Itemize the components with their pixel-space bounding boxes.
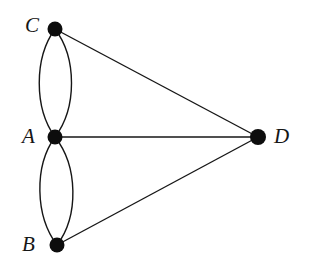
vertex-C (48, 22, 63, 37)
vertex-D (250, 129, 266, 145)
graph-figure: C A B D (0, 0, 309, 270)
edge-C-A-left (39, 29, 55, 137)
vertex-B (50, 238, 65, 253)
vertex-label-B: B (22, 234, 35, 255)
edge-C-D (55, 29, 258, 137)
edge-B-D (57, 137, 258, 245)
edge-layer (39, 29, 258, 245)
edge-C-A-right (55, 29, 72, 137)
vertex-label-C: C (25, 15, 39, 36)
edge-A-B-right (55, 137, 73, 245)
vertex-A (48, 130, 63, 145)
graph-canvas (0, 0, 309, 270)
edge-A-B-left (40, 137, 57, 245)
vertex-label-A: A (22, 126, 35, 147)
vertex-label-D: D (274, 126, 289, 147)
